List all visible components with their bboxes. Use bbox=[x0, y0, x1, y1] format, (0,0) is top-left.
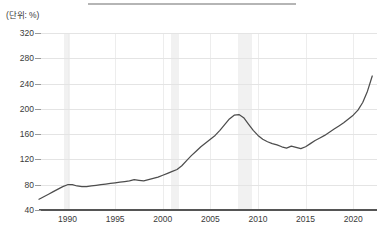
x-tick-label-2005: 2005 bbox=[190, 214, 230, 224]
top-divider-rule bbox=[88, 3, 296, 5]
y-tick-dash-120 bbox=[35, 159, 41, 160]
x-tick-label-2000: 2000 bbox=[143, 214, 183, 224]
y-tick-dash-280 bbox=[35, 58, 41, 59]
y-tick-dash-80 bbox=[35, 185, 41, 186]
y-tick-label-40: 40 bbox=[0, 206, 34, 215]
series-line-ratio bbox=[39, 33, 377, 210]
x-tick-label-2020: 2020 bbox=[333, 214, 373, 224]
y-tick-label-160: 160 bbox=[0, 130, 34, 139]
y-tick-label-120: 120 bbox=[0, 155, 34, 164]
y-tick-dash-320 bbox=[35, 33, 41, 34]
plot-area bbox=[39, 33, 377, 210]
y-tick-label-240: 240 bbox=[0, 80, 34, 89]
y-tick-dash-160 bbox=[35, 134, 41, 135]
y-tick-label-280: 280 bbox=[0, 54, 34, 63]
x-tick-label-2010: 2010 bbox=[238, 214, 278, 224]
y-tick-dash-40 bbox=[35, 210, 41, 211]
y-tick-label-200: 200 bbox=[0, 105, 34, 114]
y-tick-dash-200 bbox=[35, 109, 41, 110]
unit-label: (단위: %) bbox=[6, 8, 39, 20]
x-tick-label-1995: 1995 bbox=[95, 214, 135, 224]
y-tick-label-320: 320 bbox=[0, 29, 34, 38]
x-tick-label-2015: 2015 bbox=[286, 214, 326, 224]
x-axis-line bbox=[39, 209, 377, 211]
y-tick-dash-240 bbox=[35, 84, 41, 85]
y-tick-label-80: 80 bbox=[0, 181, 34, 190]
chart-figure: (단위: %) 4080120160200240280320 199019952… bbox=[0, 0, 381, 238]
x-tick-label-1990: 1990 bbox=[48, 214, 88, 224]
